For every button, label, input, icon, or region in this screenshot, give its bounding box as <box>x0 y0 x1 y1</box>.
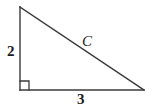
right-triangle-diagram: 2 3 C <box>0 0 152 112</box>
vertical-leg-label: 2 <box>7 44 15 59</box>
right-angle-marker-icon <box>20 81 29 90</box>
hypotenuse-label: C <box>82 34 92 49</box>
horizontal-leg-label: 3 <box>77 92 85 107</box>
triangle-figure <box>0 0 152 112</box>
